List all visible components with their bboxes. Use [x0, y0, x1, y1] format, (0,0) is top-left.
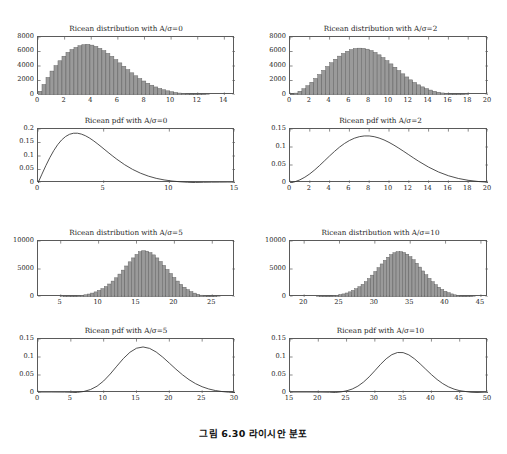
x-tick-label: 6 — [115, 97, 119, 104]
x-tick-label: 14 — [423, 97, 431, 104]
plot-title: Ricean distribution with A/σ=0 — [2, 24, 250, 33]
x-tick-label: 0 — [35, 97, 39, 104]
x-tick-label: 0 — [287, 185, 291, 192]
pdf-curve — [290, 353, 488, 394]
y-tick-label: 0.15 — [2, 335, 34, 342]
x-tick-label: 5 — [68, 395, 72, 402]
x-tick-label: 2 — [307, 97, 311, 104]
x-tick-label: 15 — [285, 395, 293, 402]
plot-canvas — [290, 129, 488, 183]
plot-area — [289, 240, 487, 296]
y-tick-label: 0 — [256, 389, 286, 396]
y-tick-label: 0.1 — [256, 143, 286, 150]
y-tick-label: 10000 — [256, 237, 286, 244]
x-tick-label: 14 — [423, 185, 431, 192]
panel-pdf-2: Ricean pdf with A/σ=2 024681012141618200… — [256, 116, 505, 200]
plot-area — [37, 128, 234, 182]
x-tick-label: 14 — [219, 97, 227, 104]
plot-canvas — [290, 37, 488, 95]
y-tick-label: 5000 — [256, 265, 286, 272]
plot-canvas — [38, 241, 235, 297]
y-tick-label: 6000 — [2, 47, 34, 54]
x-tick-label: 12 — [193, 97, 201, 104]
plot-title: Ricean pdf with A/σ=0 — [2, 116, 250, 125]
y-tick-label: 8000 — [256, 33, 286, 40]
x-tick-label: 10 — [98, 395, 106, 402]
panel-hist-2: Ricean distribution with A/σ=2 024681012… — [256, 24, 505, 108]
x-tick-label: 20 — [483, 185, 491, 192]
y-tick-label: 0.15 — [2, 138, 34, 145]
x-tick-label: 15 — [131, 395, 139, 402]
x-tick-label: 15 — [131, 299, 139, 306]
plot-title: Ricean pdf with A/σ=2 — [256, 116, 505, 125]
x-tick-label: 20 — [164, 395, 172, 402]
y-tick-label: 2000 — [2, 76, 34, 83]
x-tick-label: 4 — [88, 97, 92, 104]
x-tick-label: 20 — [313, 395, 321, 402]
figure-page: Ricean distribution with A/σ=0 024681012… — [0, 0, 507, 454]
y-tick-label: 0 — [2, 293, 34, 300]
x-tick-label: 16 — [443, 185, 451, 192]
y-tick-label: 5000 — [2, 265, 34, 272]
x-tick-label: 45 — [476, 299, 484, 306]
y-tick-label: 0 — [256, 293, 286, 300]
plot-title: Ricean distribution with A/σ=10 — [256, 228, 505, 237]
x-tick-label: 30 — [230, 395, 238, 402]
x-tick-label: 18 — [463, 185, 471, 192]
x-tick-label: 0 — [35, 185, 39, 192]
panel-hist-0: Ricean distribution with A/σ=0 024681012… — [2, 24, 250, 108]
y-tick-label: 0.05 — [2, 371, 34, 378]
x-tick-label: 30 — [370, 395, 378, 402]
x-tick-label: 10 — [93, 299, 101, 306]
plot-area — [289, 36, 487, 94]
panel-hist-10: Ricean distribution with A/σ=10 20253035… — [256, 228, 505, 312]
y-tick-label: 2000 — [256, 76, 286, 83]
pdf-curve — [38, 347, 235, 393]
x-tick-label: 30 — [370, 299, 378, 306]
plot-canvas — [290, 241, 488, 297]
y-tick-label: 0.05 — [256, 371, 286, 378]
y-tick-label: 0.05 — [2, 165, 34, 172]
x-tick-label: 15 — [230, 185, 238, 192]
y-tick-label: 0.05 — [256, 161, 286, 168]
x-tick-label: 4 — [326, 185, 330, 192]
x-tick-label: 8 — [141, 97, 145, 104]
x-tick-label: 5 — [101, 185, 105, 192]
plot-area — [37, 338, 234, 392]
plot-title: Ricean distribution with A/σ=2 — [256, 24, 505, 33]
x-tick-label: 50 — [483, 395, 491, 402]
y-tick-label: 0.1 — [2, 353, 34, 360]
x-tick-label: 2 — [307, 185, 311, 192]
x-tick-label: 40 — [440, 299, 448, 306]
x-tick-label: 16 — [443, 97, 451, 104]
x-tick-label: 10 — [166, 97, 174, 104]
x-tick-label: 6 — [346, 97, 350, 104]
x-tick-label: 18 — [463, 97, 471, 104]
x-tick-label: 35 — [398, 395, 406, 402]
y-tick-label: 0.15 — [256, 125, 286, 132]
plot-area — [289, 338, 487, 392]
y-tick-label: 8000 — [2, 33, 34, 40]
x-tick-label: 45 — [455, 395, 463, 402]
x-tick-label: 0 — [287, 97, 291, 104]
plot-title: Ricean pdf with A/σ=5 — [2, 326, 250, 335]
x-tick-label: 20 — [169, 299, 177, 306]
y-tick-label: 4000 — [256, 62, 286, 69]
y-tick-label: 0 — [2, 389, 34, 396]
x-tick-label: 35 — [405, 299, 413, 306]
x-tick-label: 40 — [426, 395, 434, 402]
x-tick-label: 25 — [207, 299, 215, 306]
y-tick-label: 0.1 — [256, 353, 286, 360]
panel-pdf-0: Ricean pdf with A/σ=0 05101500.050.10.15… — [2, 116, 250, 200]
x-tick-label: 20 — [483, 97, 491, 104]
pdf-curve — [290, 136, 488, 183]
panel-pdf-5: Ricean pdf with A/σ=5 05101520253000.050… — [2, 326, 250, 410]
x-tick-label: 8 — [366, 185, 370, 192]
y-tick-label: 0.15 — [256, 335, 286, 342]
y-tick-label: 6000 — [256, 47, 286, 54]
plot-title: Ricean pdf with A/σ=10 — [256, 326, 505, 335]
pdf-curve — [38, 133, 235, 183]
x-tick-label: 25 — [341, 395, 349, 402]
y-tick-label: 4000 — [2, 62, 34, 69]
panel-pdf-10: Ricean pdf with A/σ=10 15202530354045500… — [256, 326, 505, 410]
